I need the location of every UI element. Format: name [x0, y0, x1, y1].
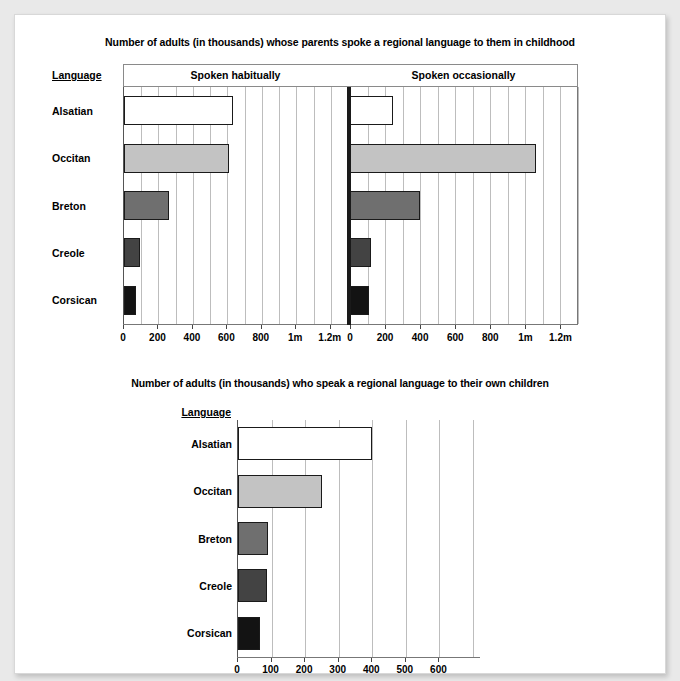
tickmark	[438, 658, 439, 662]
category-label-corsican: Corsican	[150, 626, 232, 640]
tickmark	[371, 658, 372, 662]
chart-2-title: Number of adults (in thousands) who spea…	[0, 377, 680, 389]
bar-corsican	[238, 617, 260, 650]
bar-occitan	[238, 475, 322, 508]
chart-2-panel	[237, 420, 472, 657]
tickmark	[405, 658, 406, 662]
gridline	[372, 420, 373, 657]
tickmark	[237, 658, 238, 662]
chart-2-language-header: Language	[165, 405, 231, 419]
category-label-alsatian: Alsatian	[150, 437, 232, 451]
bar-creole	[238, 569, 267, 602]
bar-alsatian	[238, 427, 372, 460]
category-label-breton: Breton	[150, 532, 232, 546]
screenshot-root: Number of adults (in thousands) whose pa…	[0, 0, 680, 681]
category-label-occitan: Occitan	[150, 484, 232, 498]
tickmark	[338, 658, 339, 662]
chart-2-axis-line	[237, 657, 480, 658]
chart-own-children: Number of adults (in thousands) who spea…	[0, 0, 680, 681]
gridline	[406, 420, 407, 657]
tick-label: 600	[418, 663, 458, 677]
gridline	[439, 420, 440, 657]
tickmark	[271, 658, 272, 662]
bar-breton	[238, 522, 268, 555]
category-label-creole: Creole	[150, 579, 232, 593]
tickmark	[304, 658, 305, 662]
gridline	[473, 420, 474, 657]
